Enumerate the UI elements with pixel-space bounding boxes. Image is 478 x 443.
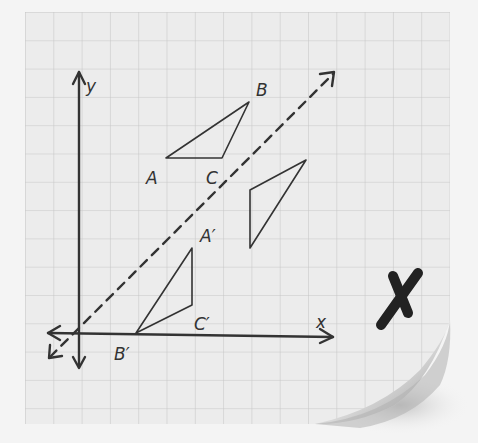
- label-c-prime: C′: [194, 314, 210, 334]
- label-b-prime: B′: [114, 344, 130, 364]
- label-a: A: [145, 168, 158, 188]
- y-axis-label: y: [85, 76, 97, 96]
- grid-lines: [25, 12, 450, 424]
- label-b: B: [256, 80, 268, 100]
- sticky-note-diagram: y x A B C A′ B′ C′: [0, 0, 478, 443]
- x-axis-label: x: [315, 312, 327, 332]
- diagram-canvas: y x A B C A′ B′ C′: [0, 0, 478, 443]
- label-c: C: [206, 168, 218, 188]
- label-a-prime: A′: [199, 226, 216, 246]
